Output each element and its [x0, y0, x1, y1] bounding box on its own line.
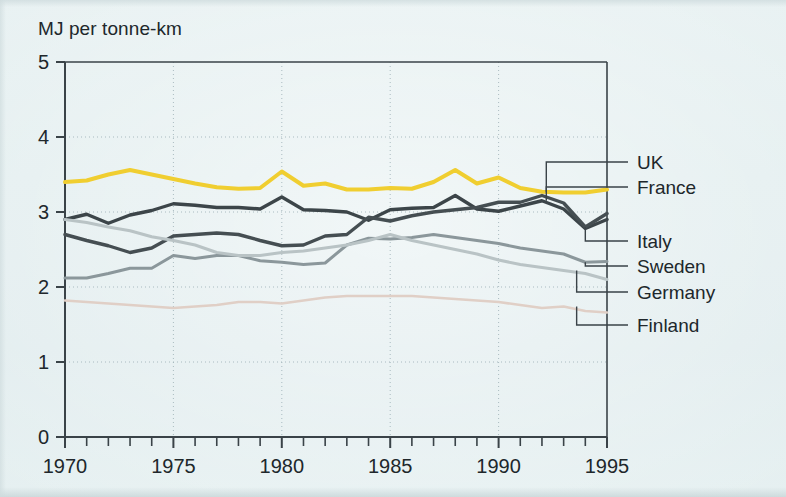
y-tick-label: 4 [38, 126, 49, 148]
y-tick-label: 0 [38, 426, 49, 448]
series-line-finland [65, 296, 607, 313]
axis-ticks [56, 62, 607, 448]
data-series [65, 170, 607, 313]
legend-leaders [546, 162, 628, 325]
line-chart: MJ per tonne-km 197019751980198519901995… [0, 0, 786, 497]
y-tick-label: 1 [38, 351, 49, 373]
x-tick-label: 1975 [151, 455, 196, 477]
legend: UKFranceItalySwedenGermanyFinland [637, 152, 716, 336]
plot-canvas: 197019751980198519901995 012345 UKFrance… [0, 0, 786, 497]
legend-label-finland: Finland [637, 315, 699, 336]
legend-label-italy: Italy [637, 231, 672, 252]
x-tick-label: 1990 [476, 455, 521, 477]
x-tick-labels: 197019751980198519901995 [43, 455, 630, 477]
y-tick-label: 2 [38, 276, 49, 298]
legend-label-uk: UK [637, 152, 664, 173]
y-tick-label: 5 [38, 51, 49, 73]
x-tick-label: 1970 [43, 455, 88, 477]
legend-label-germany: Germany [637, 282, 716, 303]
legend-label-sweden: Sweden [637, 256, 706, 277]
x-tick-label: 1980 [260, 455, 305, 477]
series-line-uk [65, 170, 607, 193]
x-tick-label: 1985 [368, 455, 413, 477]
y-tick-labels: 012345 [38, 51, 49, 448]
series-line-sweden [65, 235, 607, 279]
legend-leader-finland [577, 307, 628, 326]
legend-label-france: France [637, 177, 696, 198]
y-tick-label: 3 [38, 201, 49, 223]
x-tick-label: 1995 [585, 455, 630, 477]
